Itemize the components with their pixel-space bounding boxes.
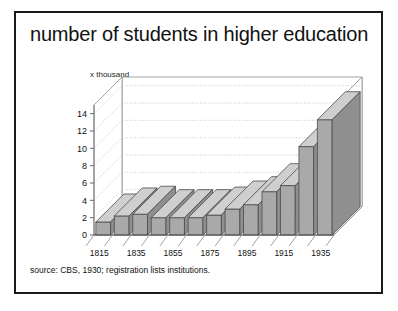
x-axis-tick-label: 1875 (201, 248, 220, 258)
y-axis-tick-label: 4 (82, 196, 87, 206)
source-note: source: CBS, 1930; registration lists in… (30, 265, 210, 275)
x-axis-tick-label: 1915 (274, 248, 293, 258)
y-axis-tick-label: 0 (82, 230, 87, 240)
plot-area: 024681012141815183518551875189519151935 (16, 73, 385, 263)
bar (317, 92, 360, 235)
chart-panel: number of students in higher education x… (14, 11, 383, 294)
x-axis-tick-label: 1935 (311, 248, 330, 258)
y-axis-tick-label: 14 (77, 109, 87, 119)
y-axis-tick-label: 12 (77, 126, 87, 136)
x-axis-tick-label: 1815 (90, 248, 109, 258)
y-axis-tick-label: 10 (77, 144, 87, 154)
y-axis-tick-label: 2 (82, 213, 87, 223)
y-axis-tick-label: 8 (82, 161, 87, 171)
x-axis-tick-label: 1835 (127, 248, 146, 258)
bar-chart-svg: 024681012141815183518551875189519151935 (16, 73, 385, 263)
x-axis-tick-label: 1855 (164, 248, 183, 258)
chart-title: number of students in higher education (30, 23, 368, 46)
y-axis-tick-label: 6 (82, 178, 87, 188)
x-axis-tick-label: 1895 (237, 248, 256, 258)
x-axis: 1815183518551875189519151935 (86, 235, 334, 258)
